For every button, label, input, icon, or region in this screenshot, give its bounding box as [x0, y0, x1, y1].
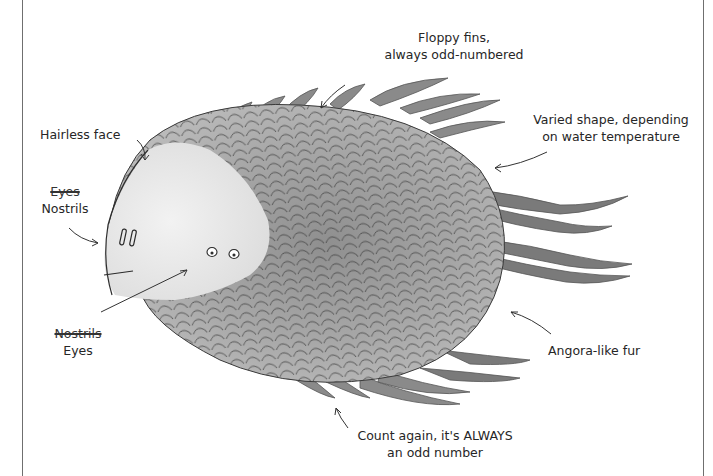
annotation-fins-line2: always odd-numbered: [374, 46, 534, 63]
annotation-fur: Angora-like fur: [548, 342, 640, 359]
annotation-eyes: Nostrils Eyes: [48, 325, 108, 359]
annotation-count-line1: Count again, it's ALWAYS: [345, 427, 525, 444]
annotation-count-line2: an odd number: [345, 444, 525, 461]
annotation-fur-text: Angora-like fur: [548, 343, 640, 358]
annotation-tail-line2: on water temperature: [518, 128, 704, 145]
annotation-tail-line1: Varied shape, depending: [518, 111, 704, 128]
creature-illustration: [0, 0, 713, 476]
annotation-nostrils: Eyes Nostrils: [36, 183, 94, 217]
annotation-eyes-struck: Nostrils: [48, 325, 108, 342]
annotation-tail: Varied shape, depending on water tempera…: [518, 111, 704, 145]
annotation-fins: Floppy fins, always odd-numbered: [374, 29, 534, 63]
annotation-face: Hairless face: [40, 126, 120, 143]
annotation-count: Count again, it's ALWAYS an odd number: [345, 427, 525, 461]
annotation-eyes-text: Eyes: [48, 342, 108, 359]
annotation-fins-line1: Floppy fins,: [374, 29, 534, 46]
annotation-face-text: Hairless face: [40, 127, 120, 142]
annotation-nostrils-text: Nostrils: [36, 200, 94, 217]
annotation-nostrils-struck: Eyes: [36, 183, 94, 200]
